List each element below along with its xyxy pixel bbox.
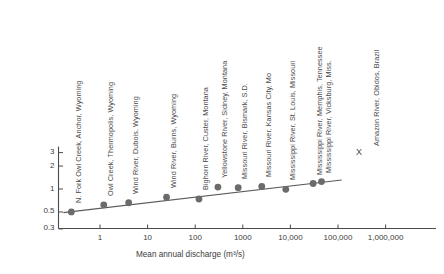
amazon-x-marker: X: [356, 147, 362, 157]
chart-figure: Mean annual discharge (m³/s) Mean veloci…: [0, 0, 444, 274]
y-tick-label: 0.5: [3, 206, 55, 215]
data-point: [125, 199, 132, 206]
x-tick-label: 1,000,000: [346, 233, 426, 242]
y-tick-label: 1: [3, 184, 55, 193]
site-label: N. Fork Owl Creek, Anchor, Wyoming: [75, 80, 82, 202]
site-label: Missouri River, Kansas City, Mo: [265, 73, 272, 177]
site-label: Wind River, Burns, Wyoming: [170, 94, 177, 188]
data-point: [215, 184, 222, 191]
data-point: [310, 180, 317, 187]
data-point: [100, 201, 107, 208]
site-label: Mississippi River, Memphis, Tennessee: [316, 46, 323, 175]
data-point: [318, 178, 325, 185]
x-axis-title: Mean annual discharge (m³/s): [136, 250, 245, 259]
data-point: [258, 183, 265, 190]
y-tick-label: 0.3: [3, 223, 55, 232]
site-label: Bighorn River, Custer, Montana: [202, 87, 209, 190]
site-label: Missouri River, Bismark, S.D.: [241, 83, 248, 179]
site-label: Yellowstone River, Sidney, Montana: [221, 61, 228, 178]
site-label: Mississippi River, St. Louis, Missouri: [289, 61, 296, 181]
data-point: [68, 209, 75, 216]
y-tick-label: 2: [3, 161, 55, 170]
data-point: [282, 186, 289, 193]
data-point: [196, 196, 203, 203]
data-point: [163, 194, 170, 201]
site-label: Mississippi River, Vicksburg, Miss.: [325, 60, 332, 173]
amazon-legend-label: Amazon River, Obidos, Brazil: [373, 50, 380, 146]
site-label: Owl Creek, Thermopolis, Wyoming: [107, 82, 114, 196]
site-label: Wind River, Dubois, Wyoming: [132, 96, 139, 194]
y-tick-label: 3: [3, 147, 55, 156]
data-point: [235, 184, 242, 191]
